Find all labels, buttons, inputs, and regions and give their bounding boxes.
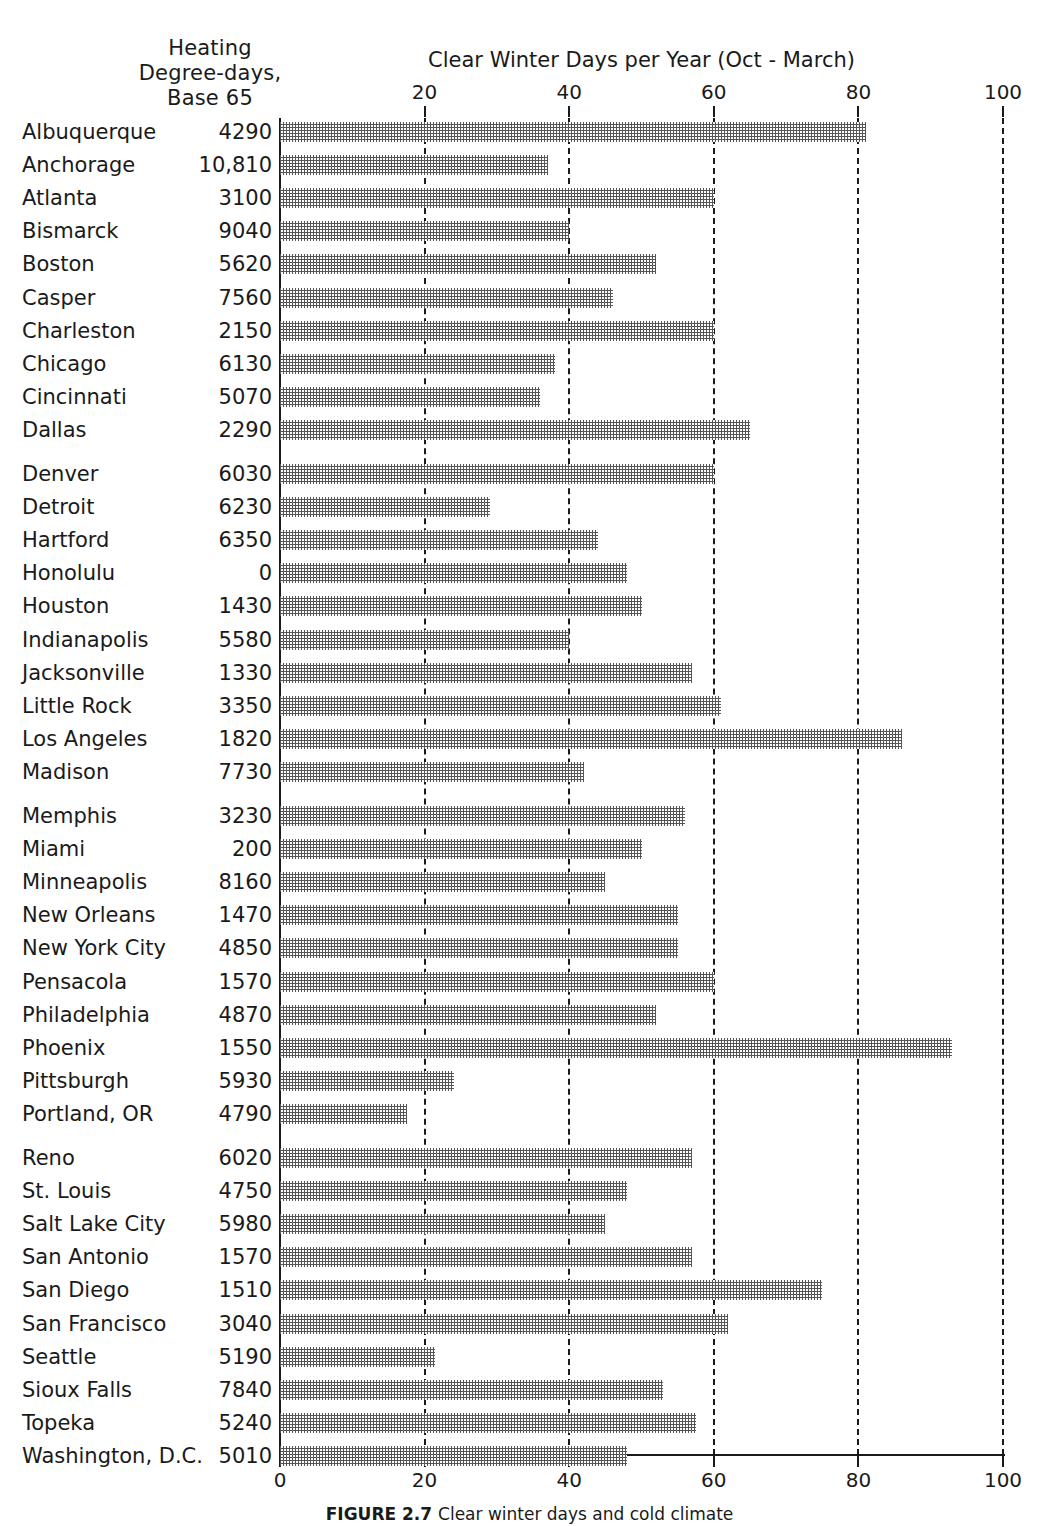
heating-degree-days-value: 2290 <box>150 418 272 442</box>
heating-degree-days-value: 6020 <box>150 1146 272 1170</box>
heating-degree-days-value: 7560 <box>150 286 272 310</box>
tick-top-20 <box>424 106 426 117</box>
bar <box>280 122 866 142</box>
bar <box>280 872 605 892</box>
bar-row: Dallas2290 <box>0 418 1059 442</box>
tick-label-top-20: 20 <box>412 80 437 104</box>
column-header-heating-degree-days: Heating Degree-days, Base 65 <box>130 36 290 111</box>
heating-degree-days-value: 4870 <box>150 1003 272 1027</box>
bar <box>280 806 685 826</box>
bar-row: Albuquerque4290 <box>0 120 1059 144</box>
bar <box>280 155 548 175</box>
heating-degree-days-value: 5010 <box>150 1444 272 1468</box>
heating-degree-days-value: 5930 <box>150 1069 272 1093</box>
bar-row: Portland, OR4790 <box>0 1102 1059 1126</box>
bar <box>280 288 613 308</box>
tick-label-top-80: 80 <box>846 80 871 104</box>
bar <box>280 1038 952 1058</box>
bar-row: Cincinnati5070 <box>0 385 1059 409</box>
bar-row: Seattle5190 <box>0 1345 1059 1369</box>
heating-degree-days-value: 5070 <box>150 385 272 409</box>
heating-degree-days-value: 2150 <box>150 319 272 343</box>
bar <box>280 1214 605 1234</box>
heating-degree-days-value: 4790 <box>150 1102 272 1126</box>
heating-degree-days-value: 1550 <box>150 1036 272 1060</box>
bar-row: Denver6030 <box>0 462 1059 486</box>
bar-row: Salt Lake City5980 <box>0 1212 1059 1236</box>
heating-degree-days-value: 5620 <box>150 252 272 276</box>
bar <box>280 762 584 782</box>
bar <box>280 1181 627 1201</box>
bar-row: New York City4850 <box>0 936 1059 960</box>
heating-degree-days-value: 5580 <box>150 628 272 652</box>
bar <box>280 221 569 241</box>
bar <box>280 1380 663 1400</box>
tick-label-bottom-20: 20 <box>412 1468 437 1492</box>
bar-row: Hartford6350 <box>0 528 1059 552</box>
tick-label-bottom-0: 0 <box>274 1468 287 1492</box>
heating-degree-days-value: 1570 <box>150 1245 272 1269</box>
bar <box>280 1071 454 1091</box>
bar <box>280 254 656 274</box>
heating-degree-days-value: 1330 <box>150 661 272 685</box>
tick-label-top-60: 60 <box>701 80 726 104</box>
bar <box>280 1148 692 1168</box>
tick-label-bottom-100: 100 <box>984 1468 1022 1492</box>
tick-top-80 <box>857 106 859 117</box>
bar-row: Casper7560 <box>0 286 1059 310</box>
heating-degree-days-value: 6350 <box>150 528 272 552</box>
heating-degree-days-value: 9040 <box>150 219 272 243</box>
bar <box>280 1314 728 1334</box>
caption-figure-number: FIGURE 2.7 <box>326 1504 432 1524</box>
bar <box>280 1413 696 1433</box>
bar <box>280 354 555 374</box>
bar-row: San Francisco3040 <box>0 1312 1059 1336</box>
bar-row: Madison7730 <box>0 760 1059 784</box>
heating-degree-days-value: 1510 <box>150 1278 272 1302</box>
heating-degree-days-value: 1430 <box>150 594 272 618</box>
heating-degree-days-value: 6130 <box>150 352 272 376</box>
bar-row: San Antonio1570 <box>0 1245 1059 1269</box>
bar-row: Charleston2150 <box>0 319 1059 343</box>
bar <box>280 630 569 650</box>
bar <box>280 1280 822 1300</box>
bar <box>280 596 642 616</box>
figure-container: Heating Degree-days, Base 65 Clear Winte… <box>0 0 1059 1526</box>
bar <box>280 972 714 992</box>
bar-row: New Orleans1470 <box>0 903 1059 927</box>
bar-row: Little Rock3350 <box>0 694 1059 718</box>
heating-degree-days-value: 7730 <box>150 760 272 784</box>
bar-row: Miami200 <box>0 837 1059 861</box>
bar <box>280 1347 435 1367</box>
heating-degree-days-value: 1470 <box>150 903 272 927</box>
bar <box>280 1446 627 1466</box>
chart-title: Clear Winter Days per Year (Oct - March) <box>280 48 1003 72</box>
bar <box>280 1005 656 1025</box>
bar <box>280 839 642 859</box>
heating-degree-days-value: 1820 <box>150 727 272 751</box>
bar-row: Minneapolis8160 <box>0 870 1059 894</box>
heating-degree-days-value: 6230 <box>150 495 272 519</box>
tick-top-100 <box>1002 106 1004 117</box>
bar-row: Pensacola1570 <box>0 970 1059 994</box>
bar <box>280 1104 407 1124</box>
bar <box>280 663 692 683</box>
bar-row: Bismarck9040 <box>0 219 1059 243</box>
heating-degree-days-value: 3350 <box>150 694 272 718</box>
heating-degree-days-value: 5190 <box>150 1345 272 1369</box>
tick-label-top-40: 40 <box>556 80 581 104</box>
heating-degree-days-value: 3230 <box>150 804 272 828</box>
bar-row: Boston5620 <box>0 252 1059 276</box>
bar-row: Los Angeles1820 <box>0 727 1059 751</box>
bar <box>280 905 678 925</box>
tick-label-bottom-80: 80 <box>846 1468 871 1492</box>
bar-row: Atlanta3100 <box>0 186 1059 210</box>
bar-row: St. Louis4750 <box>0 1179 1059 1203</box>
heating-degree-days-value: 6030 <box>150 462 272 486</box>
bar-row: Washington, D.C.5010 <box>0 1444 1059 1468</box>
bar-row: Pittsburgh5930 <box>0 1069 1059 1093</box>
caption-text: Clear winter days and cold climate <box>438 1504 733 1524</box>
bar-row: Philadelphia4870 <box>0 1003 1059 1027</box>
heating-degree-days-value: 5240 <box>150 1411 272 1435</box>
heating-degree-days-value: 1570 <box>150 970 272 994</box>
